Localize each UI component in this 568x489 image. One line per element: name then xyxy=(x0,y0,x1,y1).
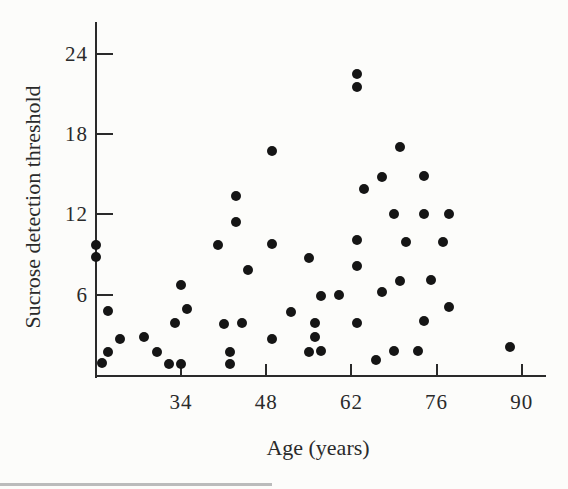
data-point xyxy=(438,237,448,247)
data-point xyxy=(304,347,314,357)
data-point xyxy=(225,359,235,369)
data-point xyxy=(91,240,101,250)
data-point xyxy=(316,291,326,301)
x-axis-title: Age (years) xyxy=(228,434,408,462)
y-tick-mark xyxy=(96,294,113,296)
x-tick-mark xyxy=(436,364,438,376)
data-point xyxy=(505,342,515,352)
data-point xyxy=(426,275,436,285)
data-point xyxy=(413,346,423,356)
scatter-plot-figure: Sucrose detection threshold 6121824 3448… xyxy=(0,0,568,489)
data-point xyxy=(91,252,101,262)
data-point xyxy=(267,334,277,344)
data-point xyxy=(401,237,411,247)
data-point xyxy=(419,316,429,326)
y-tick-label: 12 xyxy=(40,201,88,227)
data-point xyxy=(359,184,369,194)
scan-artifact-line xyxy=(0,483,272,486)
data-point xyxy=(237,318,247,328)
y-axis-line xyxy=(95,22,97,378)
data-point xyxy=(352,82,362,92)
data-point xyxy=(395,142,405,152)
data-point xyxy=(316,346,326,356)
x-tick-mark xyxy=(265,364,267,376)
y-tick-label: 18 xyxy=(40,121,88,147)
data-point xyxy=(444,209,454,219)
data-point xyxy=(334,290,344,300)
data-point xyxy=(352,261,362,271)
data-point xyxy=(182,304,192,314)
data-point xyxy=(310,318,320,328)
data-point xyxy=(164,359,174,369)
x-axis-line xyxy=(95,375,546,377)
data-point xyxy=(267,146,277,156)
x-tick-label: 76 xyxy=(415,389,459,415)
data-point xyxy=(419,171,429,181)
x-tick-mark xyxy=(521,364,523,376)
data-point xyxy=(286,307,296,317)
data-point xyxy=(219,319,229,329)
data-point xyxy=(139,332,149,342)
data-point xyxy=(419,209,429,219)
data-point xyxy=(103,347,113,357)
data-point xyxy=(304,253,314,263)
data-point xyxy=(395,276,405,286)
y-tick-mark xyxy=(96,213,113,215)
data-point xyxy=(152,347,162,357)
data-point xyxy=(377,287,387,297)
data-point xyxy=(225,347,235,357)
data-point xyxy=(243,265,253,275)
data-point xyxy=(389,346,399,356)
x-tick-label: 48 xyxy=(244,389,288,415)
data-point xyxy=(444,302,454,312)
data-point xyxy=(377,172,387,182)
data-point xyxy=(97,358,107,368)
data-point xyxy=(371,355,381,365)
data-point xyxy=(352,69,362,79)
data-point xyxy=(352,235,362,245)
data-point xyxy=(213,240,223,250)
x-tick-label: 90 xyxy=(500,389,544,415)
x-tick-label: 62 xyxy=(329,389,373,415)
y-tick-label: 6 xyxy=(40,282,88,308)
y-tick-mark xyxy=(96,53,113,55)
data-point xyxy=(176,359,186,369)
x-tick-mark xyxy=(350,364,352,376)
data-point xyxy=(231,217,241,227)
data-point xyxy=(170,318,180,328)
data-point xyxy=(103,306,113,316)
data-point xyxy=(310,332,320,342)
data-point xyxy=(389,209,399,219)
data-point xyxy=(352,318,362,328)
x-tick-label: 34 xyxy=(159,389,203,415)
data-point xyxy=(115,334,125,344)
y-tick-label: 24 xyxy=(40,41,88,67)
y-tick-mark xyxy=(96,133,113,135)
data-point xyxy=(176,280,186,290)
data-point xyxy=(231,191,241,201)
data-point xyxy=(267,239,277,249)
